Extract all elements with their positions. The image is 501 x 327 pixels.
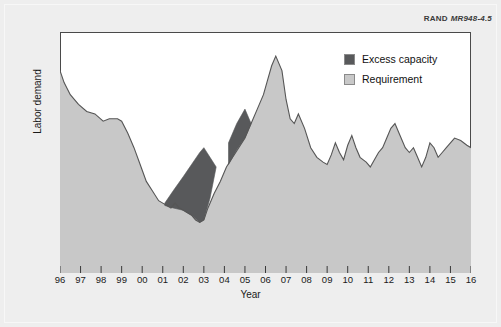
legend-swatch-excess-capacity (344, 54, 355, 65)
source-credit: RANDMR948-4.5 (424, 14, 492, 23)
x-tick-labels: 9697989900010203040506070809101112131415… (60, 274, 471, 288)
legend-swatch-requirement (344, 74, 355, 85)
legend-item-requirement: Requirement (344, 73, 437, 85)
legend-label-requirement: Requirement (362, 73, 422, 85)
y-axis-title: Labor demand (32, 42, 43, 162)
x-tick-label: 16 (459, 274, 483, 285)
legend-label-excess-capacity: Excess capacity (362, 53, 437, 65)
credit-org: RAND (424, 14, 448, 23)
x-axis-title: Year (0, 289, 501, 300)
credit-code: MR948-4.5 (451, 14, 492, 23)
chart-legend: Excess capacity Requirement (344, 53, 437, 85)
legend-item-excess-capacity: Excess capacity (344, 53, 437, 65)
figure-container: RANDMR948-4.5 Labor demand Year 96979899… (0, 0, 501, 327)
